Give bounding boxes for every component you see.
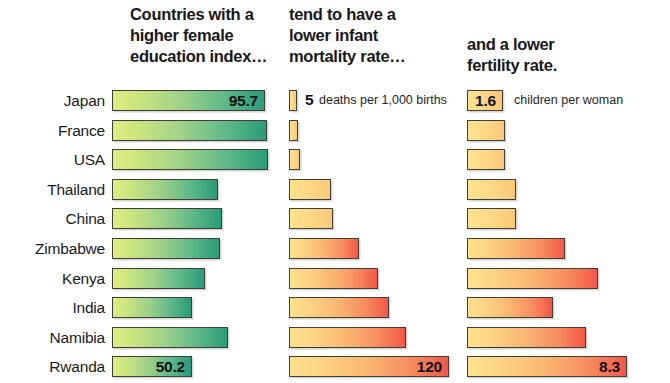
country-label-france: France: [0, 119, 105, 143]
bar-female-education-index-france: [112, 120, 267, 141]
chart-row: China: [0, 207, 670, 231]
country-label-kenya: Kenya: [0, 267, 105, 291]
bar-female-education-index-kenya: [112, 268, 205, 289]
bar-fertility-rate-china: [467, 208, 516, 229]
country-label-usa: USA: [0, 148, 105, 172]
bar-female-education-index-namibia: [112, 327, 228, 348]
country-label-india: India: [0, 296, 105, 320]
chart-row: Kenya: [0, 267, 670, 291]
bar-fertility-rate-india: [467, 297, 553, 318]
country-label-japan: Japan: [0, 89, 105, 113]
legend-unit-mortality: deaths per 1,000 births: [319, 90, 447, 111]
legend-unit-fertility: children per woman: [514, 90, 623, 111]
bar-infant-mortality-rate-rwanda: 120: [289, 356, 449, 377]
bar-infant-mortality-rate-japan: [289, 90, 297, 111]
bar-infant-mortality-rate-zimbabwe: [289, 238, 359, 259]
bar-female-education-index-usa: [112, 149, 268, 170]
bar-female-education-index-zimbabwe: [112, 238, 220, 259]
chart-row: Japan95.75deaths per 1,000 births1.6chil…: [0, 89, 670, 113]
country-label-rwanda: Rwanda: [0, 355, 105, 379]
bar-infant-mortality-rate-india: [289, 297, 389, 318]
bar-female-education-index-rwanda: 50.2: [112, 356, 192, 377]
country-label-namibia: Namibia: [0, 326, 105, 350]
bar-fertility-rate-usa: [467, 149, 505, 170]
country-label-zimbabwe: Zimbabwe: [0, 237, 105, 261]
bar-fertility-rate-rwanda: 8.3: [467, 356, 627, 377]
bar-fertility-rate-thailand: [467, 179, 516, 200]
bar-fertility-rate-france: [467, 120, 505, 141]
bar-fertility-rate-kenya: [467, 268, 598, 289]
bar-female-education-index-japan: 95.7: [112, 90, 265, 111]
column-heading-fertility: and a lower fertility rate.: [467, 34, 637, 76]
bar-infant-mortality-rate-thailand: [289, 179, 331, 200]
chart-row: USA: [0, 148, 670, 172]
bar-fertility-rate-japan: 1.6: [467, 90, 503, 111]
column-heading-mortality: tend to have a lower infant mortality ra…: [289, 4, 459, 67]
bar-infant-mortality-rate-kenya: [289, 268, 378, 289]
bar-infant-mortality-rate-namibia: [289, 327, 406, 348]
chart-row: Rwanda50.21208.3: [0, 355, 670, 379]
bar-infant-mortality-rate-france: [289, 120, 298, 141]
legend-number-fertility: 1.6: [475, 91, 496, 112]
bar-female-education-index-india: [112, 297, 192, 318]
bar-value-label: 8.3: [599, 357, 620, 378]
bar-female-education-index-china: [112, 208, 222, 229]
chart-row: Zimbabwe: [0, 237, 670, 261]
chart-row: Thailand: [0, 178, 670, 202]
chart-row: India: [0, 296, 670, 320]
country-label-thailand: Thailand: [0, 178, 105, 202]
chart-row: France: [0, 119, 670, 143]
bar-infant-mortality-rate-usa: [289, 149, 300, 170]
bar-value-label: 120: [417, 357, 442, 378]
bar-female-education-index-thailand: [112, 179, 218, 200]
bar-fertility-rate-namibia: [467, 327, 586, 348]
chart-row: Namibia: [0, 326, 670, 350]
bar-value-label: 50.2: [156, 357, 185, 378]
bar-infant-mortality-rate-china: [289, 208, 333, 229]
infographic-chart: Countries with a higher female education…: [0, 0, 670, 383]
legend-number-mortality: 5: [305, 90, 314, 111]
country-label-china: China: [0, 207, 105, 231]
column-heading-education: Countries with a higher female education…: [130, 4, 290, 67]
bar-value-label: 95.7: [229, 91, 258, 112]
bar-fertility-rate-zimbabwe: [467, 238, 565, 259]
